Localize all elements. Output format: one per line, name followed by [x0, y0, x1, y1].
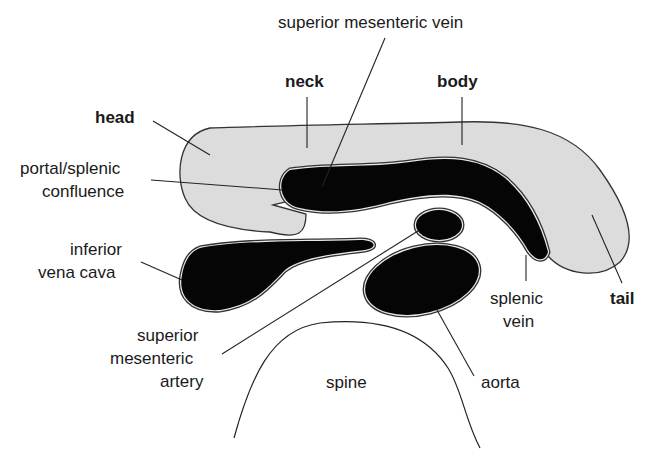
label-confluence-1: portal/splenic: [20, 159, 121, 178]
inferior-vena-cava-vessel: [181, 240, 373, 310]
label-ivc-1: inferior: [70, 240, 122, 259]
label-smv: superior mesenteric vein: [278, 13, 463, 32]
label-spine: spine: [326, 373, 367, 392]
label-head: head: [95, 108, 135, 127]
label-splenic-vein-2: vein: [503, 312, 534, 331]
label-confluence-2: confluence: [42, 182, 124, 201]
label-splenic-vein-1: splenic: [490, 289, 543, 308]
leader-aorta: [437, 310, 474, 376]
label-tail: tail: [610, 289, 635, 308]
label-body: body: [437, 72, 478, 91]
label-ivc-2: vena cava: [38, 263, 116, 282]
aorta-vessel: [358, 234, 487, 326]
pancreas-anatomy-diagram: superior mesenteric vein neck body head …: [0, 0, 649, 458]
leader-ivc: [141, 262, 182, 280]
label-sma-2: mesenteric: [110, 349, 194, 368]
label-neck: neck: [285, 72, 324, 91]
label-aorta: aorta: [481, 373, 520, 392]
superior-mesenteric-artery-vessel: [416, 210, 462, 240]
label-sma-3: artery: [160, 372, 204, 391]
label-sma-1: superior: [137, 326, 199, 345]
